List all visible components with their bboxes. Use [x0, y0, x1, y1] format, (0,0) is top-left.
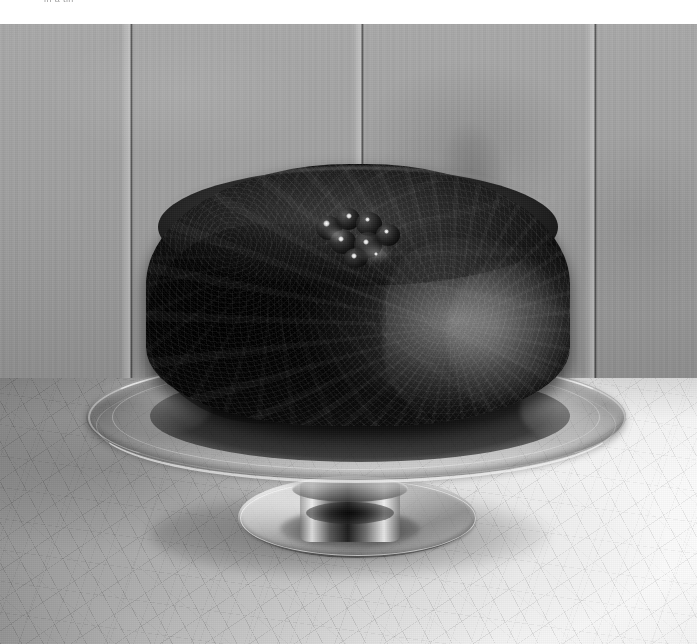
page-root: in a tin [0, 0, 697, 644]
fruit-cake [146, 164, 570, 426]
caption-text: in a tin [44, 0, 74, 4]
cherry-highlight [338, 236, 344, 242]
cherry-highlight [374, 252, 378, 256]
photograph [0, 24, 697, 644]
cherry-sheen [324, 226, 348, 242]
cherry-highlight [351, 253, 357, 259]
cherry-highlight [363, 239, 369, 245]
glace-cherries [314, 208, 410, 270]
cherry-highlight [365, 217, 370, 222]
cherry-highlight [346, 213, 352, 219]
cherry-highlight [384, 229, 389, 234]
caption-strip: in a tin [0, 0, 697, 12]
cherry-highlight [323, 220, 330, 227]
stand-stem-shadow [306, 502, 394, 524]
